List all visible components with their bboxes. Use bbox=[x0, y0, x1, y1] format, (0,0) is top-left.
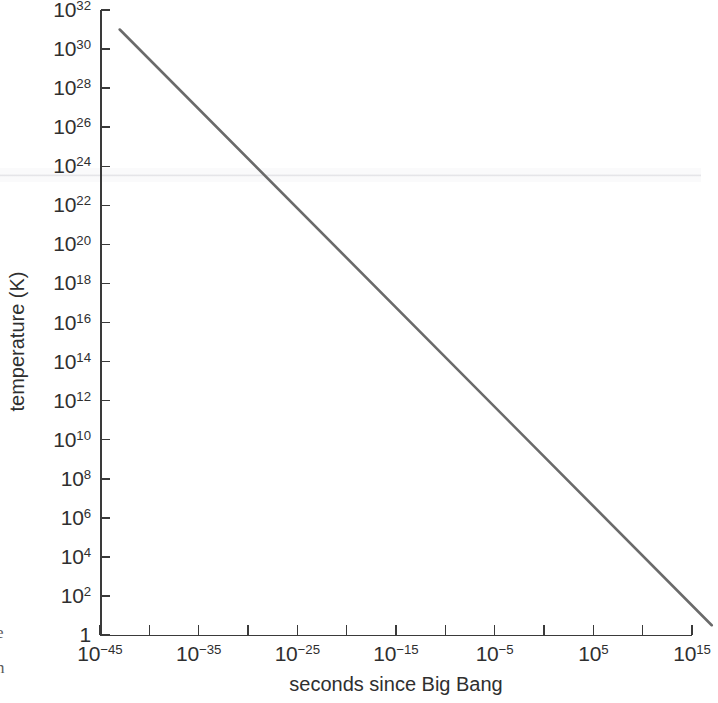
x-axis-title: seconds since Big Bang bbox=[100, 673, 692, 696]
y-axis-title: temperature (K) bbox=[6, 247, 29, 437]
temperature-decline-line bbox=[120, 30, 712, 626]
